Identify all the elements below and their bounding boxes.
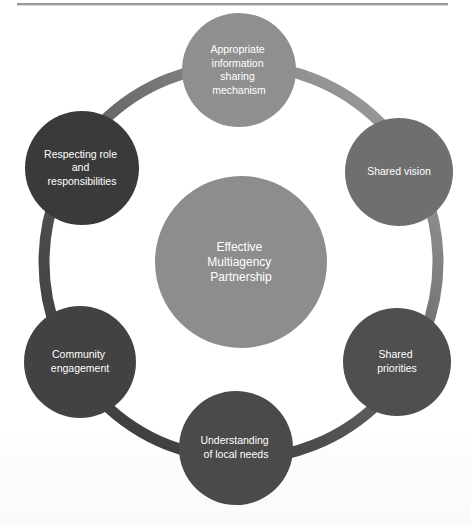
node-community-engagement-label: Community engagement [51, 348, 109, 374]
node-local-needs[interactable]: Understanding of local needs [179, 391, 293, 505]
node-0-line-3: mechanism [212, 83, 266, 95]
node-2-line-0: Shared [379, 348, 413, 360]
node-roles-responsibilities[interactable]: Respecting role and responsibilities [25, 111, 139, 225]
cycle-diagram: Effective Multiagency Partnership Approp… [0, 0, 471, 525]
center-line-1: Multiagency [207, 255, 271, 269]
node-2-line-1: priorities [377, 361, 417, 373]
node-5-line-1: and [72, 161, 90, 173]
node-3-line-1: of local needs [204, 447, 269, 459]
figure-root: Effective Multiagency Partnership Approp… [0, 0, 471, 525]
node-shared-priorities-label: Shared priorities [377, 348, 417, 374]
node-0-line-1: information [212, 56, 264, 68]
node-1-line-0: Shared vision [367, 165, 431, 177]
node-information-sharing[interactable]: Appropriate information sharing mechanis… [182, 13, 296, 127]
node-0-line-0: Appropriate [210, 43, 264, 55]
node-5-line-2: responsibilities [48, 174, 117, 186]
center-line-2: Partnership [210, 270, 272, 284]
center-line-0: Effective [216, 240, 262, 254]
node-local-needs-label: Understanding of local needs [200, 434, 271, 460]
node-4-line-0: Community [52, 348, 106, 360]
node-3-line-0: Understanding [200, 434, 268, 446]
node-0-line-2: sharing [220, 70, 255, 82]
node-shared-priorities[interactable]: Shared priorities [343, 308, 451, 416]
node-4-line-1: engagement [51, 361, 109, 373]
center-node-label: Effective Multiagency Partnership [207, 240, 274, 284]
node-5-line-0: Respecting role [44, 147, 117, 159]
center-node[interactable]: Effective Multiagency Partnership [155, 176, 327, 348]
node-shared-vision[interactable]: Shared vision [345, 118, 453, 226]
node-shared-vision-label: Shared vision [367, 165, 431, 177]
node-community-engagement[interactable]: Community engagement [24, 306, 136, 418]
